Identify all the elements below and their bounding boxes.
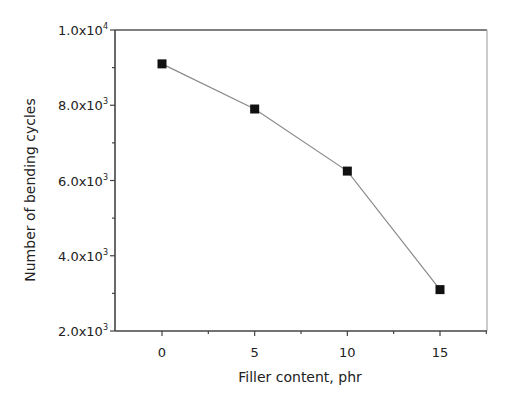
y-tick-label: 2.0x103 [58,323,108,339]
y-tick-label: 8.0x103 [58,97,108,113]
data-point-marker [158,59,167,68]
x-tick-label: 10 [339,345,356,360]
y-tick-label: 4.0x103 [58,248,108,264]
series-markers [158,59,445,294]
x-tick-label: 15 [432,345,449,360]
x-tick-label: 0 [158,345,166,360]
y-tick-label: 6.0x103 [58,173,108,189]
axis-ticks [110,30,486,336]
data-point-marker [250,105,259,114]
series-line [162,64,440,290]
y-tick-label: 1.0x104 [58,22,108,38]
data-point-marker [436,285,445,294]
plot-frame [115,30,487,331]
y-axis-label: Number of bending cycles [22,98,38,281]
x-axis-label: Filler content, phr [238,369,362,385]
data-point-marker [343,167,352,176]
x-tick-label: 5 [251,345,259,360]
